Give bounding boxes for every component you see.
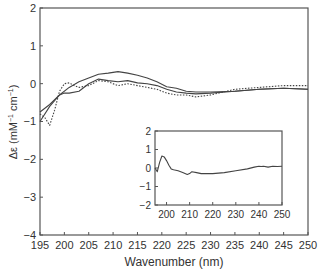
x-tick-label: 230 [201, 239, 219, 251]
y-axis-label: Δε (mM−1 cm−1) [7, 85, 19, 160]
x-tick-label: 235 [226, 239, 244, 251]
x-tick-label: 240 [250, 239, 268, 251]
y-tick-label: −2 [23, 153, 36, 165]
x-tick-label: 220 [204, 209, 221, 220]
x-axis-label: Wavenumber (nm) [125, 255, 224, 269]
x-tick-label: 230 [227, 209, 244, 220]
cd-spectrum-chart: 195200205210215220225230235240245250210−… [0, 0, 322, 274]
y-tick-label: −1 [140, 181, 152, 192]
y-tick-label: 2 [30, 2, 36, 14]
x-tick-label: 220 [153, 239, 171, 251]
x-tick-label: 250 [274, 209, 291, 220]
x-tick-label: 200 [158, 209, 175, 220]
plot-frame [155, 131, 282, 205]
y-tick-label: 0 [145, 163, 151, 174]
y-tick-label: −3 [23, 191, 36, 203]
y-tick-label: 2 [145, 126, 151, 137]
y-tick-label: −2 [140, 200, 152, 211]
y-tick-label: −4 [23, 229, 36, 241]
y-tick-label: 1 [30, 40, 36, 52]
x-tick-label: 205 [80, 239, 98, 251]
y-tick-label: 0 [30, 78, 36, 90]
x-tick-label: 210 [104, 239, 122, 251]
x-tick-label: 215 [128, 239, 146, 251]
x-tick-label: 200 [55, 239, 73, 251]
x-tick-label: 245 [274, 239, 292, 251]
x-tick-label: 210 [181, 209, 198, 220]
x-tick-label: 250 [299, 239, 317, 251]
y-tick-label: −1 [23, 115, 36, 127]
x-tick-label: 240 [251, 209, 268, 220]
y-tick-label: 1 [145, 144, 151, 155]
x-tick-label: 225 [177, 239, 195, 251]
